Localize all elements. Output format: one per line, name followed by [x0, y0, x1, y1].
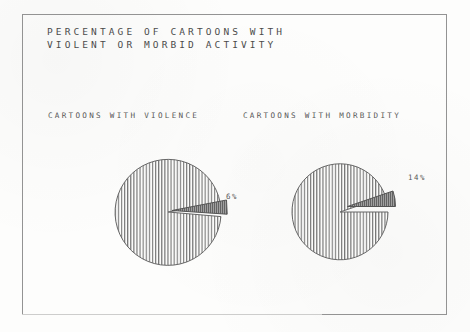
- pie-slice-no-morbidity: [292, 164, 388, 260]
- pie-chart-violence: [115, 159, 227, 265]
- pie-chart-morbidity: [292, 164, 395, 260]
- pie-charts-canvas: [0, 0, 470, 332]
- figure-page: PERCENTAGE OF CARTOONS WITH VIOLENT OR M…: [0, 0, 470, 332]
